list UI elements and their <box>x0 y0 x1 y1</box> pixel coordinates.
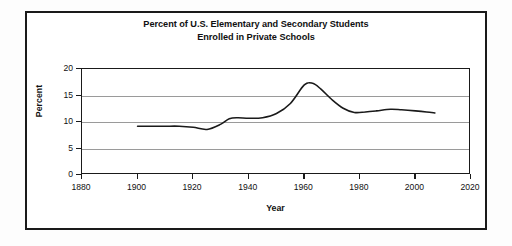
y-axis-title: Percent <box>34 61 44 141</box>
chart-title-line-2: Enrolled in Private Schools <box>25 31 487 44</box>
x-tick-label-1940: 1940 <box>225 182 271 192</box>
y-tick-label-10: 10 <box>45 116 73 126</box>
x-tick-label-2000: 2000 <box>391 182 437 192</box>
x-tick-label-1880: 1880 <box>58 182 104 192</box>
chart-title-line-1: Percent of U.S. Elementary and Secondary… <box>143 19 368 29</box>
x-axis-title: Year <box>81 203 470 213</box>
x-tick-label-1900: 1900 <box>114 182 160 192</box>
x-tick-label-1960: 1960 <box>280 182 326 192</box>
x-tick-label-1980: 1980 <box>336 182 382 192</box>
chart-title: Percent of U.S. Elementary and Secondary… <box>25 18 487 43</box>
y-tick-label-15: 15 <box>45 90 73 100</box>
data-line-series <box>82 69 471 175</box>
y-tick-label-20: 20 <box>45 63 73 73</box>
series-path-private-school-percent <box>138 83 435 130</box>
plot-area <box>81 68 470 174</box>
x-tick-label-2020: 2020 <box>447 182 493 192</box>
x-tick-label-1920: 1920 <box>169 182 215 192</box>
y-tick-label-0: 0 <box>45 169 73 179</box>
chart-figure: Percent of U.S. Elementary and Secondary… <box>0 0 512 246</box>
y-tick-label-5: 5 <box>45 143 73 153</box>
